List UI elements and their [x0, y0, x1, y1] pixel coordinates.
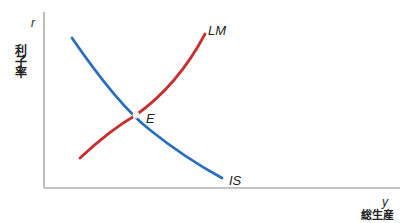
- islm-diagram: [0, 0, 409, 223]
- y-axis-title: 利子率: [13, 44, 25, 77]
- equilibrium-point: [133, 112, 139, 118]
- y-axis-symbol: r: [31, 17, 35, 29]
- lm-curve: [80, 34, 205, 158]
- x-axis-title: 総生産: [361, 210, 394, 221]
- is-curve-label: IS: [229, 174, 241, 187]
- lm-curve-label: LM: [208, 24, 226, 37]
- x-axis-symbol: y: [382, 196, 388, 208]
- equilibrium-label: E: [146, 112, 155, 125]
